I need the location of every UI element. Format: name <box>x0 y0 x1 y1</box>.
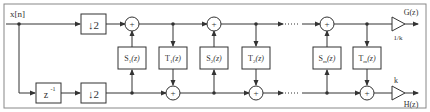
delay-branch-line <box>19 24 35 93</box>
svg-text:Tm(z): Tm(z) <box>358 54 376 64</box>
output-bottom-label: H(z) <box>404 100 419 109</box>
adder-bottom-m: + <box>360 86 374 100</box>
adder-bottom-1: + <box>166 86 180 100</box>
delay-block: z -1 <box>36 83 61 103</box>
svg-text:Sm(z): Sm(z) <box>319 54 336 64</box>
adder-bottom-2: + <box>249 86 263 100</box>
svg-text:+: + <box>253 88 258 98</box>
s1-block: S1(z) <box>118 47 146 69</box>
downsample-top-block: ↓2 <box>81 14 106 34</box>
svg-text:-1: -1 <box>51 86 56 92</box>
adder-top-2: + <box>207 17 221 31</box>
t2-block: T2(z) <box>242 47 270 69</box>
svg-text:+: + <box>211 19 216 29</box>
gain-bottom-triangle <box>392 86 405 100</box>
gain-top-label: 1/k <box>394 34 403 42</box>
svg-text:T1(z): T1(z) <box>165 54 181 64</box>
svg-text:S1(z): S1(z) <box>124 54 140 64</box>
svg-text:+: + <box>129 19 134 29</box>
gain-bottom-label: k <box>394 76 398 85</box>
output-top-label: G(z) <box>404 8 419 17</box>
input-label: x[n] <box>10 9 25 19</box>
adder-top-m: + <box>320 17 334 31</box>
downsample-bottom-label: ↓2 <box>88 88 99 100</box>
svg-text:+: + <box>324 19 329 29</box>
downsample-top-label: ↓2 <box>88 19 99 31</box>
s2-block: S2(z) <box>200 47 228 69</box>
tm-block: Tm(z) <box>353 47 381 69</box>
svg-text:z: z <box>44 89 49 100</box>
svg-text:T2(z): T2(z) <box>248 54 264 64</box>
svg-text:S2(z): S2(z) <box>206 54 222 64</box>
svg-text:+: + <box>364 88 369 98</box>
t1-block: T1(z) <box>159 47 187 69</box>
sm-block: Sm(z) <box>313 47 341 69</box>
downsample-bottom-block: ↓2 <box>81 83 106 103</box>
svg-text:+: + <box>170 88 175 98</box>
adder-top-1: + <box>125 17 139 31</box>
lifting-scheme-diagram: x[n] ↓2 z -1 ↓2 S1(z) + <box>0 0 430 112</box>
gain-top-triangle <box>392 17 405 31</box>
